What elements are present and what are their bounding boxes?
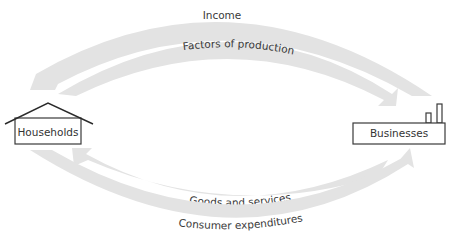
factory-chimney-small-icon (426, 113, 431, 123)
income-label: Income (203, 9, 242, 21)
households-node: Households (5, 103, 93, 144)
businesses-node: Businesses (353, 104, 445, 144)
households-label: Households (17, 126, 78, 138)
flow-consumer-expenditures: Consumer expenditures (30, 148, 414, 231)
flow-goods-and-services: Goods and services (72, 148, 388, 208)
circular-flow-diagram: Income Factors of production Goods and s… (0, 0, 455, 241)
factory-chimney-tall-icon (437, 104, 442, 123)
businesses-label: Businesses (370, 127, 428, 139)
